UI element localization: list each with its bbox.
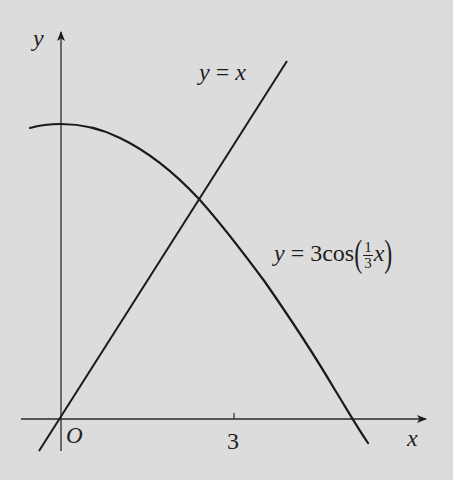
left-paren: (: [354, 235, 362, 272]
line-eq-lhs: y: [199, 59, 210, 85]
cos-eq-lhs: y: [274, 240, 285, 266]
fraction-denominator: 3: [363, 256, 373, 271]
line-y-equals-x: [39, 61, 287, 451]
line-eq-rhs: x: [235, 59, 246, 85]
fraction-one-third: 13: [363, 240, 373, 271]
right-paren: ): [384, 235, 392, 272]
line-eq-equals: =: [216, 59, 230, 85]
x-tick-label-3: 3: [227, 429, 239, 453]
curve-3cos-x-over-3: [30, 124, 368, 443]
cos-eq-function: cos: [322, 240, 354, 266]
cos-eq-variable: x: [374, 240, 385, 266]
y-axis-label: y: [33, 26, 44, 50]
x-axis-label: x: [407, 426, 418, 450]
fraction-numerator: 1: [363, 240, 373, 256]
cosine-equation-label: y = 3cos(13x): [274, 240, 392, 271]
cos-eq-coefficient: 3: [310, 240, 322, 266]
cos-eq-equals: =: [291, 240, 305, 266]
line-equation-label: y = x: [199, 60, 246, 84]
origin-label: O: [66, 424, 83, 447]
